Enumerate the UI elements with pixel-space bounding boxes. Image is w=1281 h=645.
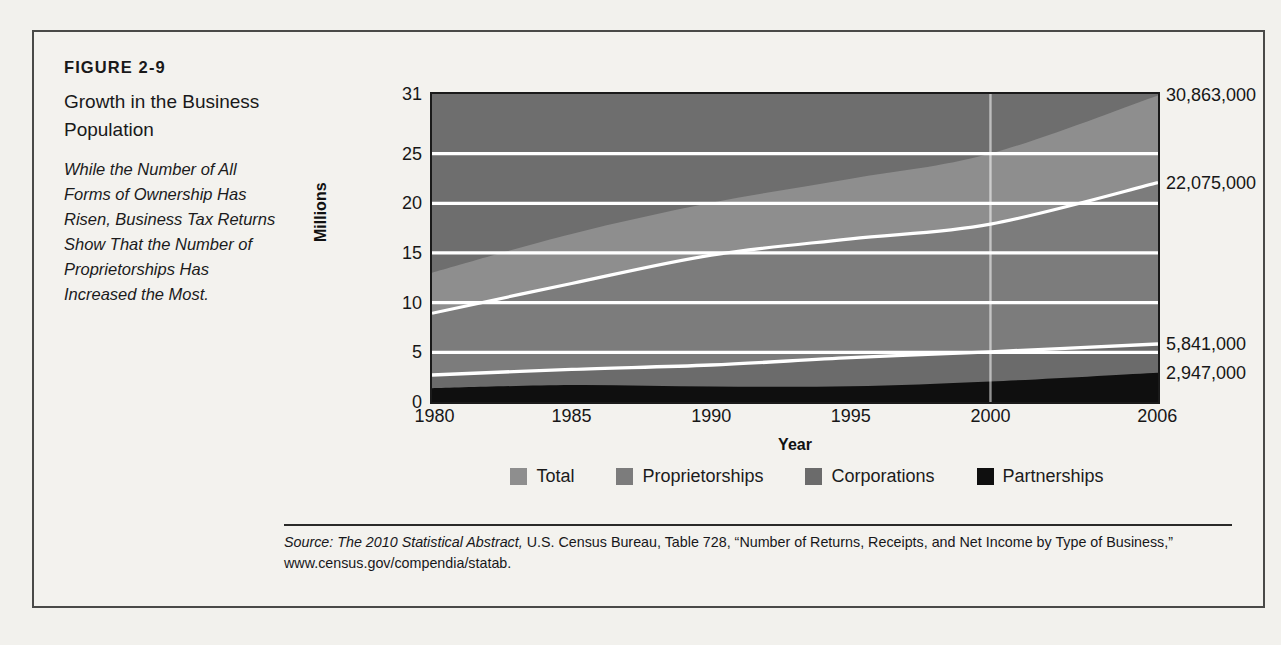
- figure-description: While the Number of All Forms of Ownersh…: [64, 157, 284, 307]
- y-axis-label: Millions: [312, 182, 330, 242]
- y-tick-label: 20: [402, 193, 422, 214]
- y-axis-tick-labels: 051015202531: [382, 92, 422, 402]
- value-callout: 2,947,000: [1166, 362, 1246, 383]
- x-tick-label: 1985: [552, 406, 592, 427]
- x-tick-label: 2000: [970, 406, 1010, 427]
- legend-label: Partnerships: [1003, 466, 1104, 487]
- chart-plot-area: [430, 92, 1160, 404]
- y-tick-label: 10: [402, 292, 422, 313]
- legend-swatch-icon: [616, 468, 633, 485]
- figure-number: FIGURE 2-9: [64, 58, 284, 77]
- legend-item-proprietorships[interactable]: Proprietorships: [616, 466, 763, 487]
- stacked-area-chart-svg: [432, 94, 1158, 402]
- y-tick-label: 5: [412, 342, 422, 363]
- right-value-callouts: 30,863,00022,075,0005,841,0002,947,000: [1166, 92, 1281, 402]
- x-tick-label: 1990: [691, 406, 731, 427]
- source-prefix: Source:: [284, 534, 333, 550]
- source-divider: [284, 524, 1232, 526]
- x-tick-label: 2006: [1137, 406, 1177, 427]
- legend-swatch-icon: [977, 468, 994, 485]
- x-tick-label: 1995: [831, 406, 871, 427]
- chart-plot-wrapper: Millions 051015202531 198019851990199520…: [382, 92, 1232, 442]
- legend-item-partnerships[interactable]: Partnerships: [977, 466, 1104, 487]
- value-callout: 22,075,000: [1166, 172, 1256, 193]
- y-tick-label: 25: [402, 143, 422, 164]
- chart-legend: TotalProprietorshipsCorporationsPartners…: [382, 466, 1232, 487]
- legend-label: Proprietorships: [642, 466, 763, 487]
- legend-swatch-icon: [805, 468, 822, 485]
- legend-label: Corporations: [831, 466, 934, 487]
- legend-item-total[interactable]: Total: [510, 466, 574, 487]
- x-axis-tick-labels: 198019851990199520002006: [430, 406, 1160, 432]
- x-tick-label: 1980: [414, 406, 454, 427]
- figure-frame: FIGURE 2-9 Growth in the Business Popula…: [32, 30, 1265, 608]
- value-callout: 30,863,000: [1166, 85, 1256, 106]
- legend-swatch-icon: [510, 468, 527, 485]
- source-publication: The 2010 Statistical Abstract,: [337, 534, 522, 550]
- y-tick-label: 15: [402, 242, 422, 263]
- value-callout: 5,841,000: [1166, 333, 1246, 354]
- source-note: Source: The 2010 Statistical Abstract, U…: [284, 532, 1242, 575]
- figure-title: Growth in the Business Population: [64, 88, 284, 144]
- legend-item-corporations[interactable]: Corporations: [805, 466, 934, 487]
- caption-column: FIGURE 2-9 Growth in the Business Popula…: [64, 58, 284, 307]
- x-axis-label: Year: [430, 436, 1160, 454]
- legend-label: Total: [536, 466, 574, 487]
- y-tick-label: 31: [402, 84, 422, 105]
